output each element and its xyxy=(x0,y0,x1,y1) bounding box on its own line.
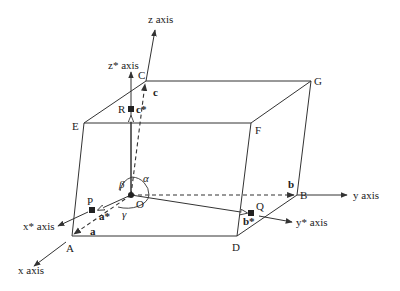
z-star-axis-label: z* axis xyxy=(108,59,139,71)
reciprocal-vectors xyxy=(98,116,247,213)
label-R: R xyxy=(118,103,126,115)
label-E: E xyxy=(72,120,79,132)
y-star-axis-line xyxy=(259,216,292,222)
edge-F-G xyxy=(251,81,311,123)
z-axis-label: z axis xyxy=(148,13,173,25)
label-O: O xyxy=(136,198,144,210)
diagram-canvas: O A B C D E F G P Q R z axis y axis x ax… xyxy=(0,0,400,291)
y-star-axis-label: y* axis xyxy=(296,216,327,228)
label-beta: β xyxy=(118,178,125,190)
label-vector-b-star: b* xyxy=(243,215,255,227)
label-alpha: α xyxy=(143,172,149,184)
label-vector-c: c xyxy=(153,86,158,98)
label-gamma: γ xyxy=(122,208,127,220)
y-axis-label: y axis xyxy=(353,189,379,201)
edge-G-B xyxy=(297,81,311,195)
unit-cell-diagram: O A B C D E F G P Q R z axis y axis x ax… xyxy=(0,0,400,291)
axis-labels: z axis y axis x axis z* axis x* axis y* … xyxy=(18,13,379,276)
label-C: C xyxy=(138,69,145,81)
vertex-labels: O A B C D E F G P Q R xyxy=(66,69,322,254)
label-vector-a-star: a* xyxy=(99,210,111,222)
label-vector-c-star: c* xyxy=(136,103,147,115)
x-star-axis-label: x* axis xyxy=(23,220,54,232)
label-A: A xyxy=(66,242,74,254)
label-Q: Q xyxy=(256,200,264,212)
label-P: P xyxy=(87,195,93,207)
label-vector-a: a xyxy=(90,225,96,237)
edge-E-C xyxy=(84,81,146,123)
point-P-marker xyxy=(89,207,95,213)
label-F: F xyxy=(255,124,261,136)
origin-point xyxy=(128,192,134,198)
x-axis-line xyxy=(34,242,66,266)
label-G: G xyxy=(314,75,322,87)
point-R-marker xyxy=(128,106,134,112)
z-axis-line xyxy=(146,30,155,81)
label-vector-b: b xyxy=(288,178,294,190)
label-D: D xyxy=(232,241,240,253)
x-axis-label: x axis xyxy=(18,264,44,276)
label-B: B xyxy=(300,189,307,201)
